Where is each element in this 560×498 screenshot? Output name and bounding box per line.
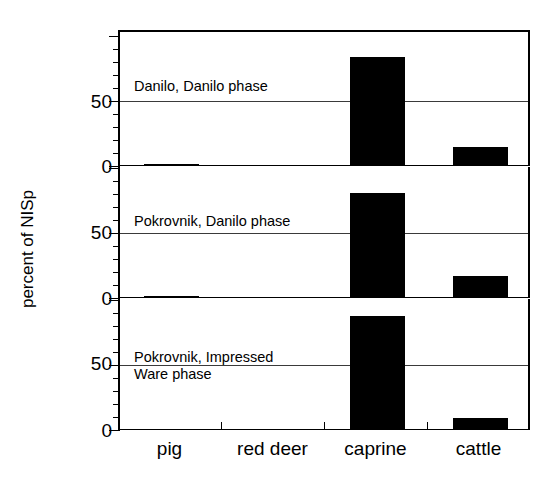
y-minor-tick	[113, 114, 120, 115]
panel-danilo-danilo-phase: Danilo, Danilo phase	[118, 30, 530, 166]
y-tick-label: 50	[70, 92, 112, 111]
x-axis-tick	[324, 422, 325, 430]
y-minor-tick	[113, 391, 120, 392]
y-minor-tick	[113, 272, 120, 273]
y-major-tick	[109, 101, 120, 102]
y-tick-label-column: 50 0 50 0 50 0	[60, 0, 112, 498]
y-minor-tick	[113, 246, 120, 247]
bar-caprine	[350, 193, 405, 298]
x-axis: pigred deercaprinecattle	[118, 430, 530, 490]
panel-annotation: Pokrovnik, Danilo phase	[134, 213, 290, 230]
panel-pokrovnik-impressed-ware-phase: Pokrovnik, Impressed Ware phase	[118, 299, 530, 430]
y-minor-tick	[113, 194, 120, 195]
x-axis-tick	[427, 422, 428, 430]
panel-annotation: Pokrovnik, Impressed Ware phase	[134, 349, 273, 383]
y-minor-tick	[113, 404, 120, 405]
y-major-tick	[109, 300, 120, 301]
bar-pig	[144, 164, 199, 167]
y-minor-tick	[113, 127, 120, 128]
x-axis-label-caprine: caprine	[344, 438, 406, 460]
panel-annotation: Danilo, Danilo phase	[134, 78, 268, 95]
y-minor-tick	[113, 352, 120, 353]
bar-cattle	[453, 276, 508, 298]
y-minor-tick	[113, 181, 120, 182]
y-major-tick	[109, 365, 120, 366]
plot-surface	[120, 30, 528, 166]
panel-pokrovnik-danilo-phase: Pokrovnik, Danilo phase	[118, 167, 530, 298]
y-minor-tick	[113, 339, 120, 340]
y-minor-tick	[113, 378, 120, 379]
y-axis-title: percent of NISp	[0, 0, 56, 498]
bar-chart-figure: percent of NISp 50 0 50 0 50 0 Danilo, D…	[0, 0, 560, 498]
plot-surface	[120, 167, 528, 298]
x-axis-label-cattle: cattle	[456, 438, 501, 460]
y-minor-tick	[113, 207, 120, 208]
y-minor-tick	[113, 313, 120, 314]
y-minor-tick	[113, 88, 120, 89]
bar-pig	[144, 296, 199, 299]
y-tick-label: 50	[70, 354, 112, 373]
y-major-tick	[109, 168, 120, 169]
bar-cattle	[453, 418, 508, 430]
y-minor-tick	[113, 75, 120, 76]
x-axis-tick	[221, 422, 222, 430]
y-major-tick	[109, 233, 120, 234]
y-minor-tick	[113, 220, 120, 221]
y-minor-tick	[113, 285, 120, 286]
bar-caprine	[350, 57, 405, 166]
y-minor-tick	[113, 153, 120, 154]
y-minor-tick	[113, 326, 120, 327]
bar-cattle	[453, 147, 508, 167]
y-minor-tick	[113, 62, 120, 63]
y-minor-tick	[113, 259, 120, 260]
y-axis-title-text: percent of NISp	[18, 190, 38, 308]
y-minor-tick	[113, 140, 120, 141]
y-tick-label: 50	[70, 223, 112, 242]
y-minor-tick	[113, 417, 120, 418]
y-minor-tick	[113, 49, 120, 50]
bar-caprine	[350, 316, 405, 430]
y-tick-label: 0	[70, 157, 112, 176]
y-tick-label: 0	[70, 421, 112, 440]
y-major-tick	[109, 36, 120, 37]
panel-stack: Danilo, Danilo phase Pokrovnik, Danilo p…	[118, 30, 530, 430]
y-tick-label: 0	[70, 289, 112, 308]
x-axis-label-red-deer: red deer	[237, 438, 308, 460]
x-axis-label-pig: pig	[157, 438, 182, 460]
